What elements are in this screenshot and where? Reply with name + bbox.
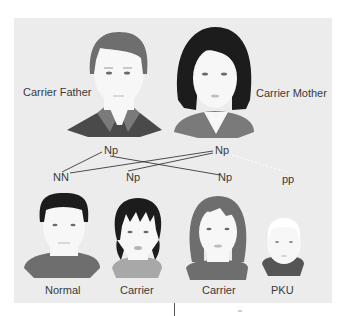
father-label: Carrier Father — [23, 86, 91, 98]
divider-line — [174, 303, 175, 316]
offspring-label-normal: Normal — [45, 284, 80, 296]
father-genotype: Np — [104, 144, 118, 156]
offspring-genotype-carrier2: Np — [218, 171, 232, 183]
offspring-label-pku: PKU — [271, 284, 294, 296]
scan-artifact — [238, 310, 242, 312]
dashed-line-pp — [232, 155, 290, 173]
offspring-label-carrier1: Carrier — [120, 284, 154, 296]
father-portrait — [67, 32, 162, 137]
pku-child-portrait — [262, 218, 304, 276]
carrier-child2-portrait — [186, 196, 248, 280]
normal-child-portrait — [24, 193, 100, 278]
inheritance-lines — [62, 151, 220, 175]
mother-genotype: Np — [215, 144, 229, 156]
offspring-genotype-normal: NN — [53, 171, 69, 183]
offspring-genotype-pku: pp — [282, 173, 294, 185]
offspring-label-carrier2: Carrier — [202, 284, 236, 296]
mother-portrait — [174, 27, 254, 138]
offspring-genotype-carrier1: Np — [126, 171, 140, 183]
pedigree-illustration — [0, 0, 346, 316]
carrier-child1-portrait — [112, 198, 162, 278]
mother-label: Carrier Mother — [256, 87, 327, 99]
